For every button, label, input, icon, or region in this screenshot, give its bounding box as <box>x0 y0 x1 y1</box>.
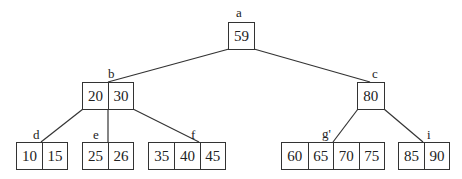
edge-c-g <box>333 109 358 142</box>
node-e-label: e <box>93 128 99 141</box>
key: 25 <box>83 143 108 169</box>
node-i-label: i <box>427 128 431 141</box>
key: 35 <box>149 143 174 169</box>
edge-c-i <box>384 109 423 142</box>
node-i: 85 90 <box>398 142 450 170</box>
node-g: 60 65 70 75 <box>281 142 385 170</box>
key: 15 <box>42 143 67 169</box>
key: 59 <box>229 23 254 49</box>
node-g-label: g' <box>322 127 331 140</box>
node-c: 80 <box>357 82 385 110</box>
node-f: 35 40 45 <box>148 142 226 170</box>
edge-a-c <box>254 49 370 82</box>
node-b-label: b <box>108 67 115 80</box>
key: 85 <box>399 143 424 169</box>
edge-a-b <box>108 49 229 82</box>
key: 75 <box>359 143 385 169</box>
key: 45 <box>200 143 225 169</box>
node-f-label: f <box>191 128 195 141</box>
edge-b-d <box>41 109 83 142</box>
node-a-label: a <box>236 6 242 19</box>
node-a: 59 <box>228 22 255 50</box>
key: 40 <box>174 143 199 169</box>
node-b: 20 30 <box>82 82 134 110</box>
key: 90 <box>424 143 449 169</box>
node-c-label: c <box>372 67 378 80</box>
key: 10 <box>17 143 42 169</box>
key: 60 <box>282 143 308 169</box>
key: 80 <box>358 83 384 109</box>
node-d: 10 15 <box>16 142 68 170</box>
key: 65 <box>308 143 334 169</box>
node-d-label: d <box>33 128 40 141</box>
key: 30 <box>108 83 133 109</box>
edge-b-f <box>133 109 199 142</box>
key: 26 <box>108 143 133 169</box>
key: 20 <box>83 83 108 109</box>
node-e: 25 26 <box>82 142 134 170</box>
key: 70 <box>333 143 359 169</box>
